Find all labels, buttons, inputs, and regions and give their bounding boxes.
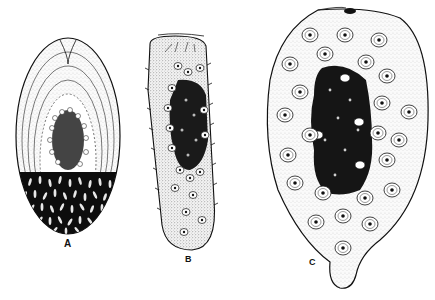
panel-a-organism bbox=[10, 38, 130, 242]
illustration-canvas: A bbox=[0, 0, 435, 300]
panel-c-organism bbox=[267, 7, 428, 288]
panel-label-b: B bbox=[185, 254, 192, 264]
panel-label-c: C bbox=[309, 257, 316, 267]
panel-label-a: A bbox=[64, 238, 71, 249]
scientific-illustration: A bbox=[0, 0, 435, 300]
panel-b-organism bbox=[145, 34, 218, 250]
